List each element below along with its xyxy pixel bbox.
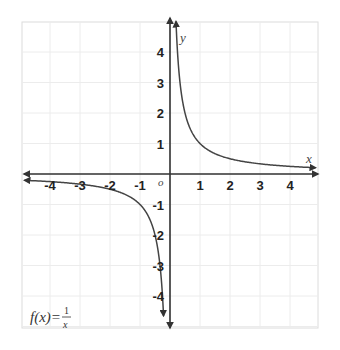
x-tick-label: -2 (104, 178, 116, 193)
formula-numerator: 1 (64, 305, 69, 316)
y-tick-label: -1 (152, 198, 164, 213)
x-tick-label: -3 (74, 178, 86, 193)
origin-label: o (158, 176, 164, 188)
formula-denominator: x (62, 319, 68, 330)
x-axis-label: x (305, 151, 312, 166)
y-tick-label: -4 (152, 289, 164, 304)
x-tick-label: -1 (134, 178, 146, 193)
formula-lhs: f(x)= (30, 309, 61, 326)
x-tick-label: 1 (196, 178, 203, 193)
x-tick-label: 4 (286, 178, 294, 193)
x-tick-label: 2 (226, 178, 233, 193)
x-tick-label: 3 (256, 178, 263, 193)
y-tick-label: 2 (157, 106, 164, 121)
hyperbola-chart: -4-3-2-112344321-1-2-3-4 x y o f(x)= 1 x (0, 0, 340, 350)
y-tick-label: -3 (152, 259, 164, 274)
y-tick-label: 1 (157, 137, 164, 152)
x-tick-label: -4 (44, 178, 56, 193)
y-tick-label: 4 (157, 45, 165, 60)
y-axis-label: y (178, 30, 186, 45)
y-tick-label: 3 (157, 76, 164, 91)
y-tick-label: -2 (152, 228, 164, 243)
